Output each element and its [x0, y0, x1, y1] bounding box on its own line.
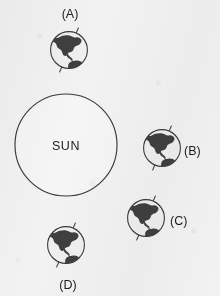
earth-b-group: (B) [144, 126, 201, 180]
sun-group: SUN [15, 94, 117, 196]
sun-label: SUN [52, 139, 80, 153]
diagram-canvas: SUN (A) (B) [0, 0, 220, 296]
earth-b-label: (B) [184, 144, 201, 158]
earth-d-label: (D) [59, 278, 76, 292]
earth-c-group: (C) [128, 196, 188, 250]
seasons-diagram: SUN (A) (B) [0, 0, 220, 296]
earth-c-label: (C) [170, 214, 187, 228]
earth-d-group: (D) [48, 223, 85, 292]
earth-a-group: (A) [51, 7, 88, 82]
earth-a-label: (A) [62, 7, 79, 21]
